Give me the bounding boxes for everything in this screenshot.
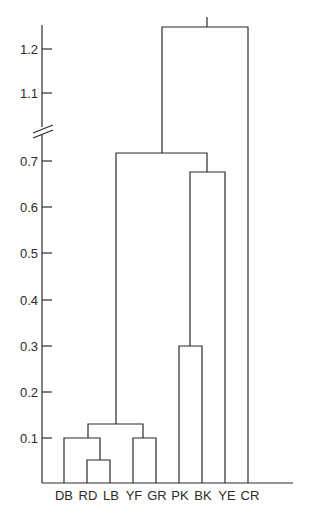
- y-tick-label: 0.4: [20, 293, 38, 308]
- dendrogram-chart: 1.2 1.1 0.7 0.6 0.5 0.4 0.3 0.2 0.1 DB R…: [0, 0, 309, 514]
- leaf-label: YE: [218, 488, 236, 503]
- y-tick-label: 0.2: [20, 385, 38, 400]
- leaf-label: LB: [103, 488, 119, 503]
- leaf-label: DB: [55, 488, 73, 503]
- leaf-labels: DB RD LB YF GR PK BK YE CR: [55, 488, 259, 503]
- y-axis: 1.2 1.1 0.7 0.6 0.5 0.4 0.3 0.2 0.1: [20, 25, 53, 483]
- leaf-label: RD: [79, 488, 98, 503]
- leaf-label: BK: [194, 488, 212, 503]
- leaf-label: YF: [126, 488, 143, 503]
- y-tick-label: 0.6: [20, 200, 38, 215]
- leaf-label: CR: [241, 488, 260, 503]
- y-tick-label: 0.3: [20, 339, 38, 354]
- y-tick-label: 0.7: [20, 154, 38, 169]
- y-tick-label: 1.1: [20, 86, 38, 101]
- dendrogram-branches: [64, 17, 248, 483]
- leaf-label: GR: [147, 488, 167, 503]
- y-tick-label: 1.2: [20, 42, 38, 57]
- y-tick-label: 0.5: [20, 246, 38, 261]
- leaf-label: PK: [171, 488, 189, 503]
- y-tick-label: 0.1: [20, 431, 38, 446]
